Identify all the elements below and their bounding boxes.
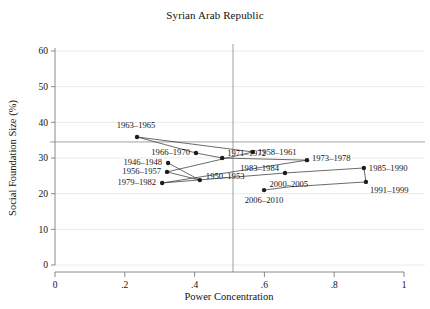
y-axis-title: Social Foundation Size (%)	[7, 100, 19, 216]
scatter-plot: 1963–19651966–19701971–19721958–19611973…	[0, 0, 430, 309]
data-point-marker	[364, 180, 368, 184]
data-point-marker	[220, 156, 224, 160]
data-point-label: 2006–2010	[245, 195, 284, 205]
y-tick-label: 0	[43, 260, 48, 270]
x-tick-label: 1	[402, 280, 407, 290]
x-tick-label: .4	[191, 280, 198, 290]
data-point-label: 1985–1990	[369, 163, 408, 173]
data-point-label: 1983–1984	[240, 163, 279, 173]
y-tick-label: 50	[39, 82, 49, 92]
data-point-marker	[160, 181, 164, 185]
data-point-label: 2000–2005	[269, 179, 308, 189]
data-point-marker	[283, 171, 287, 175]
point-labels-group: 1963–19651966–19701971–19721958–19611973…	[117, 120, 409, 205]
data-point-marker	[166, 161, 170, 165]
axes-group	[51, 48, 404, 277]
data-point-label: 1956–1957	[122, 166, 161, 176]
data-point-marker	[305, 158, 309, 162]
data-point-marker	[362, 166, 366, 170]
x-tick-label: .2	[121, 280, 128, 290]
data-point-label: 1973–1978	[312, 153, 351, 163]
data-point-marker	[198, 178, 202, 182]
y-tick-label: 40	[39, 118, 49, 128]
tick-labels-group: 01020304050600.2.4.6.81	[39, 46, 407, 290]
data-point-label: 1991–1999	[370, 185, 409, 195]
data-point-marker	[262, 188, 266, 192]
y-tick-label: 30	[39, 153, 49, 163]
x-tick-label: .8	[331, 280, 338, 290]
x-tick-label: 0	[53, 280, 58, 290]
chart-figure: Syrian Arab Republic 1963–19651966–19701…	[0, 0, 430, 309]
data-point-label: 1963–1965	[117, 120, 156, 130]
data-point-label: 1950–1953	[206, 171, 245, 181]
data-point-marker	[165, 170, 169, 174]
y-tick-label: 20	[39, 189, 49, 199]
y-tick-label: 10	[39, 225, 49, 235]
data-point-label: 1958–1961	[258, 147, 297, 157]
y-tick-label: 60	[39, 46, 49, 56]
data-point-marker	[194, 151, 198, 155]
data-point-label: 1966–1970	[151, 147, 190, 157]
data-point-label: 1979–1982	[117, 177, 156, 187]
x-tick-label: .6	[261, 280, 268, 290]
data-point-marker	[135, 135, 139, 139]
x-axis-title: Power Concentration	[185, 291, 275, 302]
gridlines-group	[55, 51, 425, 265]
